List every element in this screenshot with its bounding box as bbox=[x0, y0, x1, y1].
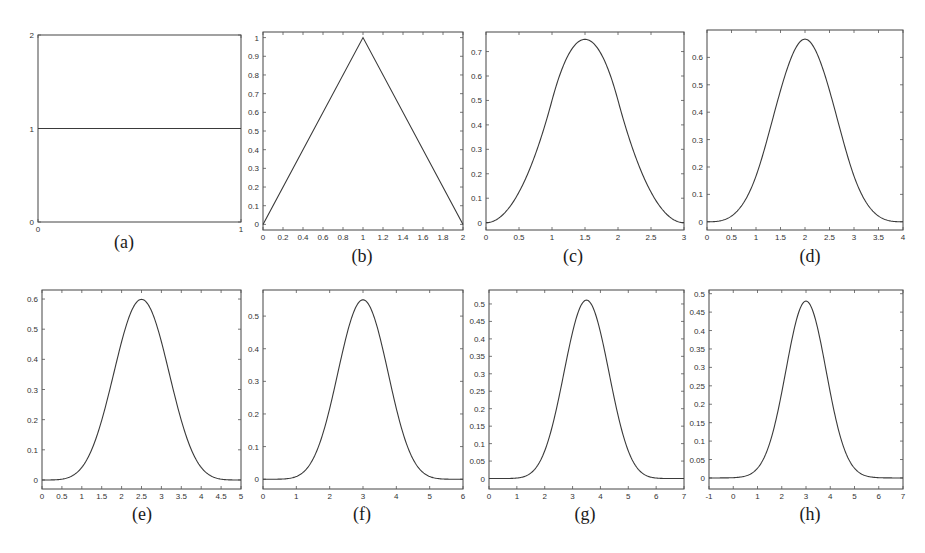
x-axis: 00.511.522.533.54 bbox=[705, 30, 906, 242]
x-tick-label: 7 bbox=[901, 492, 906, 501]
data-line bbox=[263, 300, 463, 479]
y-tick-label: 0.1 bbox=[248, 443, 260, 452]
x-tick-label: 0.5 bbox=[56, 492, 68, 501]
y-tick-label: 0.15 bbox=[689, 419, 705, 428]
panel-caption: (b) bbox=[352, 246, 373, 267]
x-tick-label: 1.6 bbox=[417, 233, 429, 242]
y-tick-label: 0.45 bbox=[689, 308, 705, 317]
y-tick-label: 0.2 bbox=[692, 163, 704, 172]
y-tick-label: 0.3 bbox=[27, 386, 39, 395]
plot-frame bbox=[707, 30, 903, 230]
x-tick-label: 6 bbox=[877, 492, 882, 501]
y-tick-label: 0.2 bbox=[248, 410, 260, 419]
y-axis: 00.10.20.30.40.50.60.70.80.91 bbox=[248, 34, 463, 230]
y-tick-label: 0.1 bbox=[474, 440, 486, 449]
y-tick-label: 0.05 bbox=[689, 456, 705, 465]
panel-f: 012345600.10.20.30.40.5(f) bbox=[248, 290, 466, 525]
y-tick-label: 0.9 bbox=[248, 52, 260, 61]
data-line bbox=[709, 301, 903, 478]
y-tick-label: 0.4 bbox=[471, 121, 483, 130]
y-axis: 00.050.10.150.20.250.30.350.40.450.5 bbox=[469, 300, 684, 484]
y-tick-label: 1 bbox=[30, 125, 35, 134]
y-tick-label: 0.3 bbox=[692, 136, 704, 145]
x-tick-label: 0.2 bbox=[277, 233, 289, 242]
x-tick-label: 1.4 bbox=[397, 233, 409, 242]
y-tick-label: 0.7 bbox=[248, 90, 260, 99]
y-tick-label: 0 bbox=[255, 220, 260, 229]
y-tick-label: 0.3 bbox=[248, 164, 260, 173]
x-tick-label: 5 bbox=[626, 492, 631, 501]
y-tick-label: 0.1 bbox=[248, 202, 260, 211]
x-tick-label: 1 bbox=[515, 492, 520, 501]
x-tick-label: 6 bbox=[461, 492, 466, 501]
x-tick-label: 4.5 bbox=[216, 492, 228, 501]
x-tick-label: 2 bbox=[803, 233, 808, 242]
x-axis: -101234567 bbox=[705, 290, 905, 501]
x-tick-label: 2 bbox=[542, 492, 547, 501]
x-axis: 01234567 bbox=[487, 290, 687, 501]
x-tick-label: 2 bbox=[119, 492, 124, 501]
x-tick-label: 5 bbox=[239, 492, 244, 501]
y-tick-label: 0.5 bbox=[694, 290, 706, 299]
data-line bbox=[707, 39, 903, 222]
x-tick-label: 7 bbox=[682, 492, 687, 501]
x-tick-label: 1.5 bbox=[579, 233, 591, 242]
panel-caption: (h) bbox=[800, 504, 821, 525]
panel-caption: (a) bbox=[114, 232, 134, 253]
x-tick-label: 0 bbox=[731, 492, 736, 501]
plot-frame bbox=[486, 32, 684, 230]
x-tick-label: 3.5 bbox=[873, 233, 885, 242]
y-tick-label: 0.5 bbox=[692, 81, 704, 90]
y-axis: 00.10.20.30.40.50.6 bbox=[27, 295, 241, 485]
x-tick-label: 3 bbox=[804, 492, 809, 501]
panel-g: 0123456700.050.10.150.20.250.30.350.40.4… bbox=[469, 290, 686, 525]
y-tick-label: 0.4 bbox=[248, 146, 260, 155]
x-tick-label: 3.5 bbox=[176, 492, 188, 501]
y-tick-label: 0.2 bbox=[471, 170, 483, 179]
x-tick-label: 0.5 bbox=[513, 233, 525, 242]
x-tick-label: 4 bbox=[828, 492, 833, 501]
x-tick-label: 1 bbox=[294, 492, 299, 501]
x-tick-label: 3 bbox=[682, 233, 687, 242]
y-tick-label: 0.2 bbox=[474, 405, 486, 414]
y-axis: 00.10.20.30.40.5 bbox=[248, 312, 463, 484]
y-tick-label: 0 bbox=[255, 475, 260, 484]
panel-d: 00.511.522.533.5400.10.20.30.40.50.6(d) bbox=[692, 30, 906, 267]
x-tick-label: 3 bbox=[852, 233, 857, 242]
panel-caption: (g) bbox=[575, 504, 596, 525]
x-tick-label: 4 bbox=[901, 233, 906, 242]
x-tick-label: 2.5 bbox=[824, 233, 836, 242]
x-tick-label: 2 bbox=[616, 233, 621, 242]
x-tick-label: 0 bbox=[261, 492, 266, 501]
data-line bbox=[486, 39, 684, 222]
x-tick-label: 4 bbox=[394, 492, 399, 501]
y-axis: 00.10.20.30.40.50.6 bbox=[692, 53, 903, 226]
y-tick-label: 0.6 bbox=[27, 295, 39, 304]
x-axis: 01 bbox=[36, 35, 244, 234]
plot-frame bbox=[709, 290, 903, 489]
y-tick-label: 0.5 bbox=[471, 96, 483, 105]
y-tick-label: 0.25 bbox=[469, 387, 485, 396]
y-tick-label: 0.2 bbox=[248, 183, 260, 192]
y-tick-label: 0.1 bbox=[471, 194, 483, 203]
panel-caption: (f) bbox=[353, 504, 371, 525]
y-tick-label: 0.5 bbox=[474, 300, 486, 309]
y-tick-label: 0.2 bbox=[694, 400, 706, 409]
x-tick-label: 1 bbox=[550, 233, 555, 242]
y-tick-label: 0.1 bbox=[27, 446, 39, 455]
panel-b: 00.20.40.60.811.21.41.61.8200.10.20.30.4… bbox=[248, 32, 466, 267]
y-tick-label: 0.3 bbox=[694, 363, 706, 372]
x-axis: 00.511.522.53 bbox=[484, 32, 687, 242]
y-tick-label: 0 bbox=[699, 218, 704, 227]
y-tick-label: 0.4 bbox=[27, 355, 39, 364]
y-tick-label: 0.5 bbox=[27, 325, 39, 334]
y-axis: 00.10.20.30.40.50.60.7 bbox=[471, 48, 684, 228]
y-tick-label: 0.1 bbox=[694, 437, 706, 446]
plot-frame bbox=[263, 32, 463, 230]
data-line bbox=[42, 299, 241, 480]
x-tick-label: 1 bbox=[239, 225, 244, 234]
x-tick-label: 0 bbox=[484, 233, 489, 242]
y-tick-label: 0.35 bbox=[469, 352, 485, 361]
panel-c: 00.511.522.5300.10.20.30.40.50.60.7(c) bbox=[471, 32, 687, 267]
y-tick-label: 0.3 bbox=[474, 370, 486, 379]
